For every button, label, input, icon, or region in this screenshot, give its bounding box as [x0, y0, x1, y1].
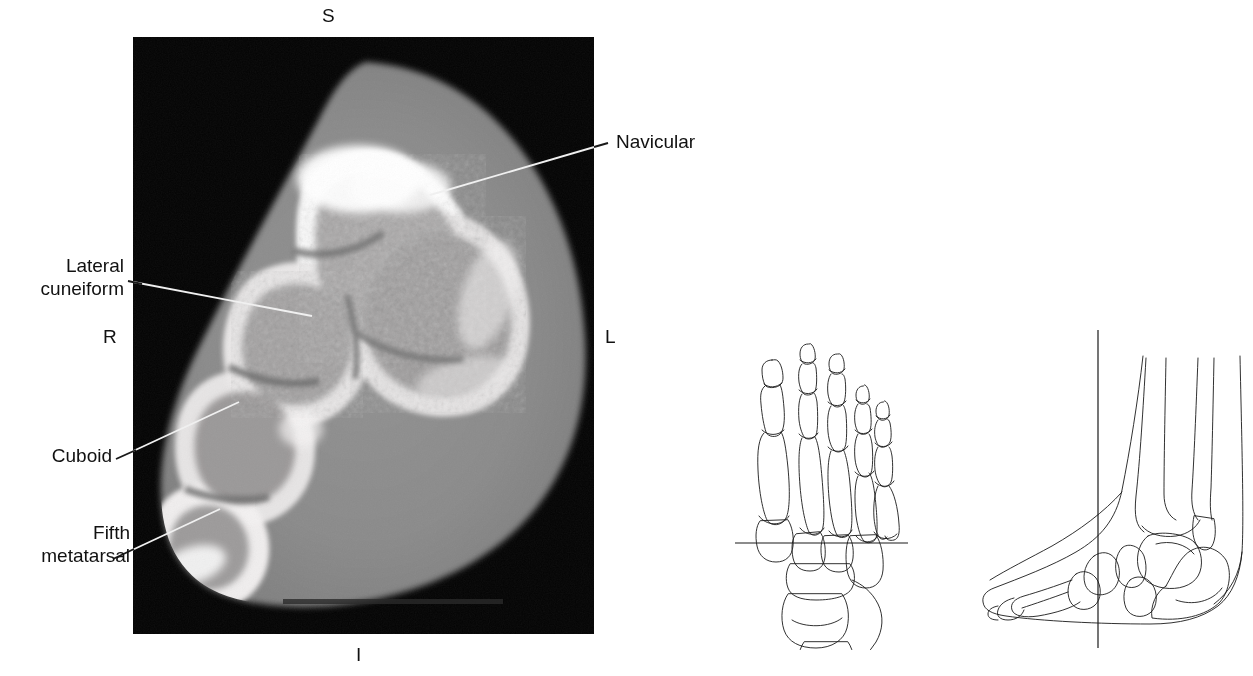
- label-lateral-cuneiform-line-1: Lateral: [0, 254, 124, 277]
- label-fifth-metatarsal-line-2: metatarsal: [0, 544, 130, 567]
- orientation-marker-right: R: [103, 327, 117, 346]
- label-cuboid: Cuboid: [0, 444, 112, 467]
- label-navicular: Navicular: [616, 130, 695, 153]
- ct-image-panel: [133, 37, 594, 634]
- label-lateral-cuneiform: Lateral cuneiform: [0, 254, 124, 300]
- ct-axial-slice: [133, 37, 594, 634]
- dorsal-foot-diagram: [700, 330, 950, 650]
- lateral-foot-diagram: [980, 330, 1250, 650]
- orientation-marker-inferior: I: [356, 645, 361, 664]
- orientation-marker-superior: S: [322, 6, 335, 25]
- ct-artifact-band: [283, 599, 503, 604]
- label-cuboid-line-1: Cuboid: [0, 444, 112, 467]
- label-lateral-cuneiform-line-2: cuneiform: [0, 277, 124, 300]
- label-fifth-metatarsal-line-1: Fifth: [0, 521, 130, 544]
- figure-root: S I R L Navicular Lateral cuneiform Cubo…: [0, 0, 1253, 676]
- leader-line-navicular-tail: [594, 143, 608, 147]
- orientation-marker-left: L: [605, 327, 616, 346]
- label-fifth-metatarsal: Fifth metatarsal: [0, 521, 130, 567]
- ct-noise-overlay: [133, 37, 594, 634]
- label-navicular-line-1: Navicular: [616, 130, 695, 153]
